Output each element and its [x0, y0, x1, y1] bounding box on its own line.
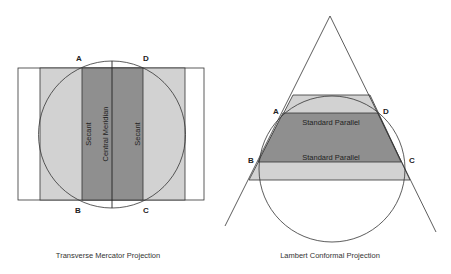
- point-a-label: A: [273, 107, 279, 116]
- central-meridian-label: Central Meridian: [101, 106, 110, 161]
- transverse-mercator-caption: Transverse Mercator Projection: [56, 251, 160, 260]
- secant-left-label: Secant: [84, 121, 93, 145]
- transverse-mercator-figure: Secant Central Meridian Secant A D B C T…: [18, 54, 204, 260]
- point-a-label: A: [76, 54, 82, 63]
- lambert-conformal-figure: Standard Parallel Standard Parallel A D …: [225, 16, 436, 260]
- lambert-conformal-caption: Lambert Conformal Projection: [280, 251, 380, 260]
- point-b-label: B: [248, 156, 254, 165]
- point-c-label: C: [409, 156, 415, 165]
- point-d-label: D: [383, 107, 389, 116]
- upper-standard-parallel-label: Standard Parallel: [302, 118, 360, 127]
- point-d-label: D: [143, 54, 149, 63]
- point-b-label: B: [75, 206, 81, 215]
- projection-diagram: Secant Central Meridian Secant A D B C T…: [0, 0, 451, 274]
- point-c-label: C: [143, 206, 149, 215]
- lower-standard-parallel-label: Standard Parallel: [302, 153, 360, 162]
- secant-right-label: Secant: [133, 121, 142, 145]
